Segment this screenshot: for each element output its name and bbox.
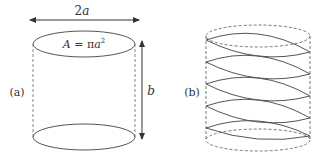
cylinder-diagram: 2a A = πa2 b (a) <box>0 0 324 162</box>
panel-a-cylinder: 2a A = πa2 b (a) <box>9 4 154 150</box>
panel-b-label: (b) <box>184 86 200 99</box>
panel-a-label: (a) <box>9 86 24 99</box>
bottom-face-ellipse <box>33 124 135 150</box>
helix-coil <box>206 33 310 139</box>
width-label: 2a <box>75 4 90 18</box>
area-label: A = πa2 <box>62 37 105 51</box>
panel-b-helix: (b) <box>184 25 310 151</box>
height-label: b <box>147 84 155 98</box>
